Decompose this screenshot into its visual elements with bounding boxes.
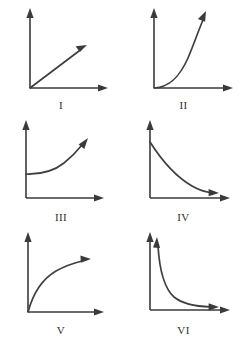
y-axis-arrow-icon	[150, 8, 157, 18]
panel-ii: II	[122, 0, 245, 112]
panel-ii-label: II	[122, 99, 245, 111]
panel-iv-curve	[150, 142, 219, 196]
panel-iv: IV	[122, 112, 245, 224]
panel-vi: VI	[122, 224, 245, 337]
y-axis-arrow-icon	[24, 232, 31, 242]
panel-v-label: V	[0, 324, 122, 336]
y-axis-arrow-icon	[26, 8, 33, 18]
x-axis-arrow-icon	[94, 194, 104, 201]
panel-vi-label: VI	[122, 324, 245, 336]
panel-v-axes	[24, 232, 104, 316]
y-axis-arrow-icon	[146, 120, 153, 130]
panel-vi-graph	[122, 224, 245, 337]
panel-ii-curve	[154, 11, 206, 88]
x-axis-arrow-icon	[220, 194, 230, 201]
panel-i-curve	[30, 45, 87, 88]
panel-iii: III	[0, 112, 122, 224]
panel-vi-curve	[153, 237, 219, 310]
panel-i-label: I	[0, 99, 122, 111]
panel-v-graph	[0, 224, 122, 337]
curve-arrow-icon	[209, 189, 219, 196]
y-axis-arrow-icon	[22, 120, 29, 130]
panel-iv-label: IV	[122, 211, 245, 223]
x-axis-arrow-icon	[94, 308, 104, 315]
curve-arrow-icon	[80, 256, 91, 263]
x-axis-arrow-icon	[223, 84, 233, 91]
panel-iii-label: III	[0, 211, 122, 223]
panel-ii-graph	[122, 0, 245, 112]
panel-i-graph	[0, 0, 122, 112]
curve-panel-grid: I II	[0, 0, 245, 337]
panel-iii-curve	[26, 138, 88, 174]
panel-iv-graph	[122, 112, 245, 224]
panel-iii-axes	[22, 120, 104, 202]
panel-iii-graph	[0, 112, 122, 224]
curve-start-arrow-icon	[153, 237, 160, 248]
curve-arrow-icon	[198, 11, 206, 22]
panel-v: V	[0, 224, 122, 337]
curve-arrow-icon	[76, 45, 87, 52]
panel-v-curve	[28, 256, 91, 313]
x-axis-arrow-icon	[220, 306, 230, 313]
panel-iv-axes	[146, 120, 230, 202]
panel-i-axes	[26, 8, 108, 92]
panel-i: I	[0, 0, 122, 112]
x-axis-arrow-icon	[98, 84, 108, 91]
y-axis-arrow-icon	[146, 232, 153, 242]
